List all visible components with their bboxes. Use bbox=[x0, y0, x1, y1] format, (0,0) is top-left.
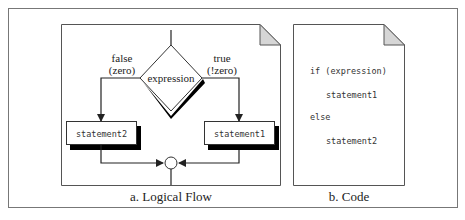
statement2-label: statement2 bbox=[76, 129, 127, 139]
false-label-line1: false bbox=[112, 52, 133, 64]
code-caption: b. Code bbox=[329, 189, 370, 204]
if-else-diagram: expression false (zero) true (!zero) sta… bbox=[0, 0, 465, 220]
logical-flow-caption: a. Logical Flow bbox=[130, 189, 213, 204]
true-label-line2: (!zero) bbox=[207, 64, 237, 77]
code-page-outline bbox=[294, 25, 405, 186]
code-line-if: if (expression) bbox=[310, 66, 387, 76]
logical-flow-panel: expression false (zero) true (!zero) sta… bbox=[62, 25, 281, 186]
decision-label: expression bbox=[147, 72, 195, 84]
true-label-line1: true bbox=[213, 52, 230, 64]
statement1-label: statement1 bbox=[214, 129, 265, 139]
code-line-statement2: statement2 bbox=[326, 136, 377, 146]
code-panel: if (expression) statement1 else statemen… bbox=[294, 25, 405, 186]
code-line-statement1: statement1 bbox=[326, 90, 377, 100]
code-line-else: else bbox=[310, 112, 330, 122]
false-label-line2: (zero) bbox=[109, 64, 136, 77]
merge-connector bbox=[165, 157, 177, 169]
